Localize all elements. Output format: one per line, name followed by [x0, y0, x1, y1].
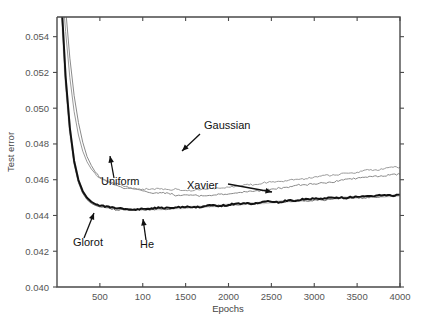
annotation-arrow-head	[108, 156, 114, 163]
annotation-label: He	[140, 238, 154, 250]
x-axis-title: Epochs	[212, 303, 244, 314]
annotation-uniform: Uniform	[101, 156, 140, 187]
tick-labels-layer: 0.0400.0420.0440.0460.0480.0500.0520.054…	[25, 31, 410, 302]
y-tick-label: 0.052	[25, 67, 49, 78]
y-tick-label: 0.046	[25, 174, 49, 185]
y-tick-label: 0.054	[25, 31, 49, 42]
annotation-label: Gaussian	[204, 119, 250, 131]
series-line-uniform	[61, 0, 400, 191]
x-tick-label: 3000	[304, 291, 325, 302]
annotation-label: Uniform	[101, 175, 140, 187]
y-tick-label: 0.044	[25, 210, 49, 221]
x-tick-label: 3500	[347, 291, 368, 302]
y-axis-title: Test error	[5, 132, 16, 172]
annotation-label: Xavier	[187, 179, 219, 191]
x-tick-label: 2000	[218, 291, 239, 302]
y-tick-label: 0.048	[25, 138, 49, 149]
plot-frame	[57, 17, 400, 287]
y-tick-label: 0.042	[25, 246, 49, 257]
test-error-line-chart: 0.0400.0420.0440.0460.0480.0500.0520.054…	[0, 0, 426, 329]
annotation-arrow-head	[141, 219, 147, 226]
y-tick-label: 0.050	[25, 103, 49, 114]
figure-container: 0.0400.0420.0440.0460.0480.0500.0520.054…	[0, 0, 426, 329]
annotation-arrow-head	[89, 213, 94, 220]
annotation-label: Glorot	[73, 236, 103, 248]
annotation-he: He	[140, 219, 154, 250]
series-annotations-layer: GaussianUniformXavierGlorotHe	[73, 119, 272, 250]
axes-layer	[53, 17, 404, 287]
x-tick-label: 100	[135, 291, 151, 302]
annotation-gaussian: Gaussian	[182, 119, 250, 151]
y-tick-label: 0.040	[25, 282, 49, 293]
x-tick-label: 500	[92, 291, 108, 302]
x-tick-label: 1500	[175, 291, 196, 302]
annotation-glorot: Glorot	[73, 213, 103, 248]
x-tick-label: 4000	[389, 291, 410, 302]
x-tick-label: 2500	[261, 291, 282, 302]
